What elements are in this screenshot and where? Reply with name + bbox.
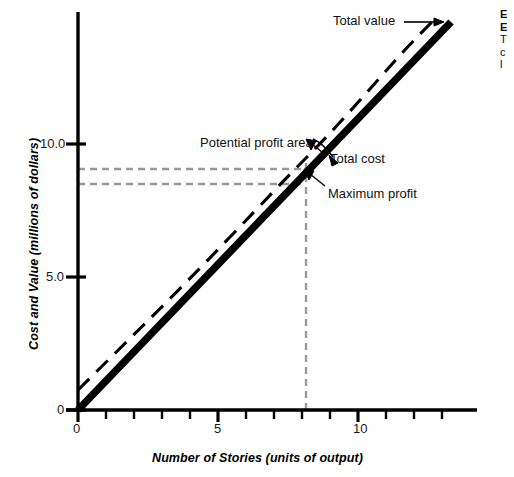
edge-caption-line-5: l <box>500 58 514 71</box>
y-axis-title: Cost and Value (millions of dollars) <box>28 138 41 350</box>
x-tick-label-10: 10 <box>353 422 367 435</box>
edge-caption-line-4: c <box>500 46 514 59</box>
y-tick-label-5: 5.0 <box>46 270 64 283</box>
annotation-potential-profit-area: Potential profit area <box>200 136 313 149</box>
annotation-total-cost: Total cost <box>330 152 385 165</box>
figure-container: 10.0 5.0 0 0 5 10 Cost and Value (millio… <box>0 0 514 477</box>
series-total-cost <box>78 20 434 390</box>
x-tick-label-5: 5 <box>214 422 221 435</box>
y-tick-label-10: 10.0 <box>40 137 65 150</box>
series-total-value <box>78 22 451 410</box>
clipped-edge-caption: E E T c l <box>500 8 514 71</box>
annotation-maximum-profit: Maximum profit <box>328 187 417 200</box>
x-tick-label-0: 0 <box>73 422 80 435</box>
annotation-total-value: Total value <box>333 14 395 27</box>
edge-caption-line-1: E <box>500 8 514 21</box>
x-axis-title: Number of Stories (units of output) <box>152 452 363 465</box>
edge-caption-line-3: T <box>500 33 514 46</box>
y-tick-label-0: 0 <box>57 403 64 416</box>
chart-plot-area <box>0 0 514 477</box>
edge-caption-line-2: E <box>500 21 514 34</box>
